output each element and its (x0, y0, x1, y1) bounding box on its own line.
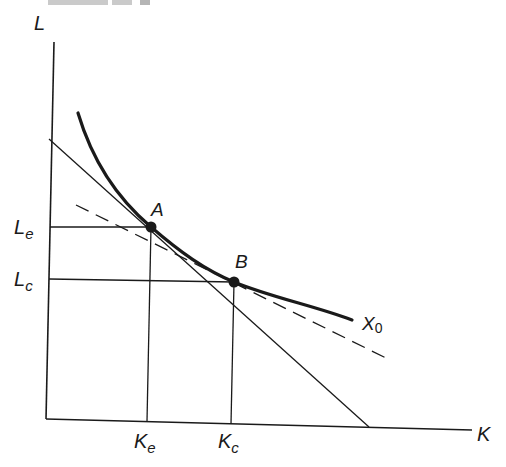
y-axis (46, 42, 54, 419)
x-tick-Kc: Kc (218, 430, 239, 456)
point-A-label: A (150, 199, 164, 220)
isocost-line-solid (49, 139, 369, 427)
caption-fragment (48, 0, 150, 5)
x-tick-Ke: Ke (134, 430, 156, 456)
point-A-marker (146, 222, 157, 233)
x-axis (46, 419, 472, 430)
y-axis-label: L (34, 12, 45, 34)
point-B-marker (229, 277, 240, 288)
y-tick-Le: Le (14, 216, 33, 242)
point-B-label: B (235, 251, 248, 272)
isoquant-diagram: L K X0 A B Le Lc Ke Kc (0, 0, 506, 467)
x-axis-label: K (477, 423, 492, 445)
isoquant-label: X0 (361, 313, 383, 336)
guide-Ke-vertical (147, 227, 151, 421)
y-tick-Lc: Lc (14, 268, 33, 294)
